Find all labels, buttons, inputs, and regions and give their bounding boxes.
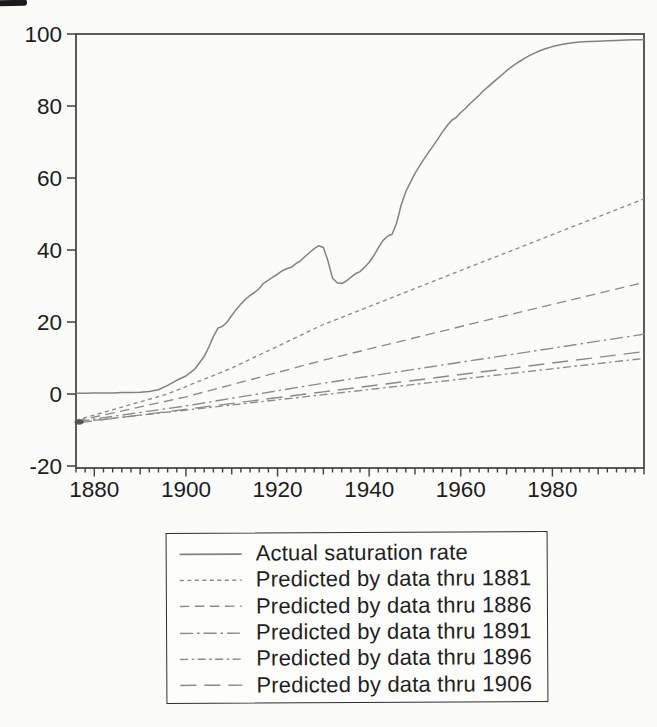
series-line-predicted-1891 bbox=[76, 334, 644, 422]
ink-knot bbox=[75, 419, 84, 424]
y-tick-label: 40 bbox=[37, 238, 62, 263]
legend-item: Predicted by data thru 1886 bbox=[179, 592, 547, 620]
legend-label: Predicted by data thru 1906 bbox=[256, 673, 532, 696]
legend-swatch-medium-dash-line bbox=[179, 603, 243, 610]
y-tick-label: 80 bbox=[37, 94, 62, 119]
legend-swatch-short-dash-line bbox=[179, 577, 243, 584]
legend: Actual saturation rate Predicted by data… bbox=[166, 531, 549, 704]
x-tick-label: 1880 bbox=[69, 477, 119, 502]
x-tick-label: 1900 bbox=[161, 477, 211, 502]
series-line-actual bbox=[76, 40, 644, 394]
plot-frame bbox=[76, 34, 644, 468]
legend-item: Predicted by data thru 1906 bbox=[179, 670, 547, 698]
legend-swatch-solid-line bbox=[179, 550, 243, 557]
series-line-predicted-1881 bbox=[76, 199, 644, 420]
x-tick-label: 1960 bbox=[436, 477, 486, 502]
legend-swatch-dash-dot-dot-line bbox=[179, 655, 243, 662]
legend-item: Predicted by data thru 1881 bbox=[179, 565, 547, 593]
x-tick-label: 1980 bbox=[527, 477, 577, 502]
legend-label: Predicted by data thru 1896 bbox=[256, 646, 532, 669]
legend-swatch-dash-dot-line bbox=[179, 629, 243, 636]
y-tick-label: 60 bbox=[37, 166, 62, 191]
legend-label: Predicted by data thru 1881 bbox=[256, 568, 532, 591]
legend-item: Predicted by data thru 1896 bbox=[179, 644, 547, 672]
legend-swatch-long-dash-line bbox=[179, 682, 243, 689]
figure: 100806040200-20188019001920194019601980 … bbox=[0, 0, 657, 727]
y-tick-label: 100 bbox=[24, 22, 62, 47]
series-line-predicted-1906 bbox=[76, 352, 644, 424]
legend-label: Actual saturation rate bbox=[256, 542, 468, 565]
legend-label: Predicted by data thru 1891 bbox=[256, 620, 532, 643]
series-line-predicted-1886 bbox=[76, 282, 644, 421]
y-tick-label: 0 bbox=[49, 382, 62, 407]
legend-item: Actual saturation rate bbox=[179, 539, 547, 567]
y-tick-label: 20 bbox=[37, 310, 62, 335]
y-tick-label: -20 bbox=[29, 454, 62, 479]
x-tick-label: 1940 bbox=[344, 477, 394, 502]
legend-item: Predicted by data thru 1891 bbox=[179, 618, 547, 646]
saturation-rate-chart: 100806040200-20188019001920194019601980 bbox=[0, 0, 657, 520]
x-tick-label: 1920 bbox=[253, 477, 303, 502]
legend-label: Predicted by data thru 1886 bbox=[256, 594, 532, 617]
